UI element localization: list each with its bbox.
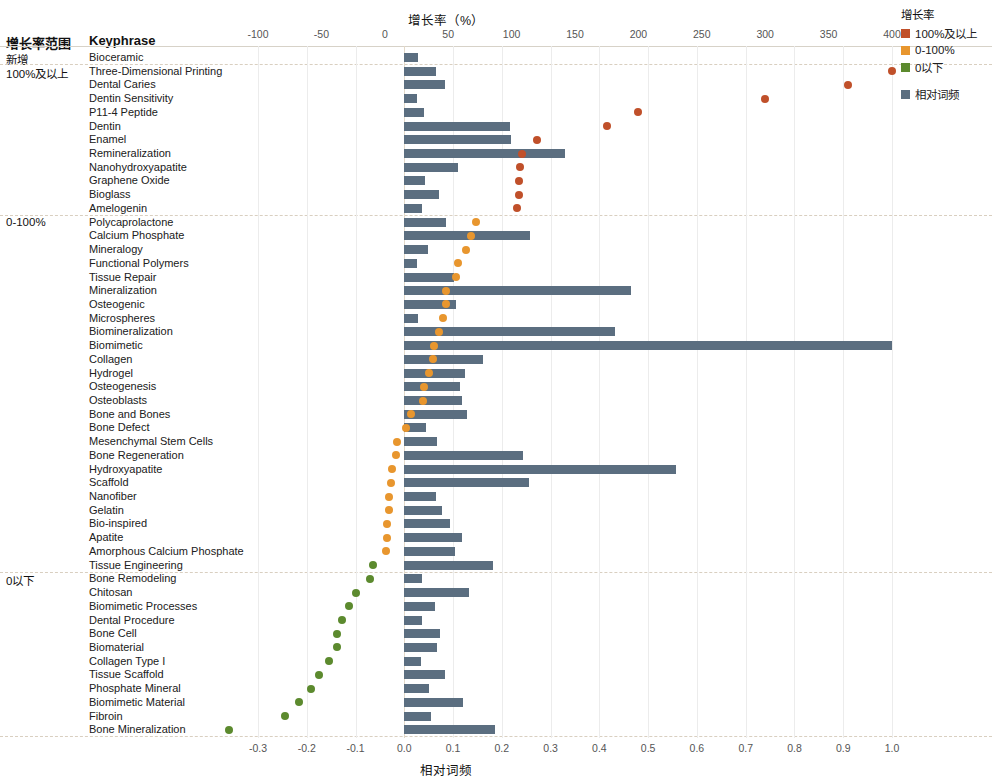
keyphrase-label: P11-4 Peptide <box>89 106 158 118</box>
gridline-9 <box>697 46 698 738</box>
bar <box>404 204 422 213</box>
legend: 增长率 100%及以上0-100%0以下 相对词频 <box>901 6 991 105</box>
bar <box>404 657 421 666</box>
gridline-0 <box>258 46 259 738</box>
bar <box>404 259 417 268</box>
bar <box>404 670 445 679</box>
legend-swatch <box>901 46 910 55</box>
bar <box>404 67 436 76</box>
legend-item-2[interactable]: 0以下 <box>901 59 991 75</box>
gridline-7 <box>599 46 600 738</box>
growth-dot <box>369 561 377 569</box>
group-column-header: 增长率范围 <box>6 33 71 52</box>
gridline-11 <box>794 46 795 738</box>
keyphrase-label: Collagen Type I <box>89 655 165 667</box>
bar <box>404 273 453 282</box>
bar <box>404 341 892 350</box>
keyphrase-label: Hydroxyapatite <box>89 463 162 475</box>
group-label: 0以下 <box>6 572 34 588</box>
growth-dot <box>515 191 523 199</box>
growth-dot <box>366 575 374 583</box>
bar <box>404 506 442 515</box>
bar <box>404 684 429 693</box>
keyphrase-label: Mesenchymal Stem Cells <box>89 435 213 447</box>
growth-dot <box>225 726 233 734</box>
bar <box>404 725 494 734</box>
keyphrase-label: Biomimetic <box>89 339 143 351</box>
keyphrase-label: Scaffold <box>89 476 129 488</box>
growth-dot <box>516 163 524 171</box>
bottom-axis-title: 相对词频 <box>0 760 892 779</box>
keyphrase-label: Fibroin <box>89 710 123 722</box>
gridline-2 <box>356 46 357 738</box>
top-tick-9: 350 <box>799 28 859 40</box>
growth-dot <box>761 95 769 103</box>
growth-dot <box>295 698 303 706</box>
plot-area <box>258 46 892 738</box>
keyphrase-label: Dentin Sensitivity <box>89 92 173 104</box>
keyphrase-label: Nanohydroxyapatite <box>89 161 187 173</box>
keyphrase-label: Phosphate Mineral <box>89 682 181 694</box>
bar <box>404 369 464 378</box>
bar <box>404 588 469 597</box>
keyphrase-label: Biomineralization <box>89 325 173 337</box>
growth-dot <box>439 314 447 322</box>
legend-swatch <box>901 29 910 38</box>
growth-dot <box>888 67 896 75</box>
keyphrase-label: Hydrogel <box>89 367 133 379</box>
growth-dot <box>307 685 315 693</box>
keyphrase-label: Mineralogy <box>89 243 143 255</box>
keyphrase-label: Biomaterial <box>89 641 144 653</box>
top-tick-0: -100 <box>228 28 288 40</box>
keyphrase-label: Microspheres <box>89 312 155 324</box>
bar <box>404 574 422 583</box>
keyphrase-label: Dental Caries <box>89 78 156 90</box>
bar <box>404 616 422 625</box>
top-tick-5: 150 <box>545 28 605 40</box>
growth-dot <box>472 218 480 226</box>
keyphrase-label: Apatite <box>89 531 123 543</box>
growth-dot <box>454 259 462 267</box>
top-axis-title: 增长率（%） <box>0 10 892 29</box>
bar <box>404 396 462 405</box>
keyphrase-label: Bio-inspired <box>89 517 147 529</box>
bar <box>404 478 528 487</box>
growth-dot <box>345 602 353 610</box>
growth-dot <box>385 493 393 501</box>
keyphrase-label: Calcium Phosphate <box>89 229 184 241</box>
keyphrase-label: Biomimetic Material <box>89 696 185 708</box>
growth-dot <box>533 136 541 144</box>
growth-dot <box>382 547 390 555</box>
legend-label: 100%及以上 <box>915 25 977 41</box>
keyphrase-label: Polycaprolactone <box>89 216 173 228</box>
keyphrase-label: Bioglass <box>89 188 131 200</box>
keyphrase-label: Dentin <box>89 120 121 132</box>
top-tick-4: 100 <box>482 28 542 40</box>
bar <box>404 602 434 611</box>
bar <box>404 80 444 89</box>
growth-dot <box>430 342 438 350</box>
legend-item-1[interactable]: 0-100% <box>901 44 991 56</box>
keyphrase-label: Bioceramic <box>89 51 143 63</box>
legend-item-0[interactable]: 100%及以上 <box>901 25 991 41</box>
keyphrase-label: Collagen <box>89 353 132 365</box>
bar <box>404 176 425 185</box>
bar <box>404 533 462 542</box>
keyphrase-label: Bone Defect <box>89 421 150 433</box>
growth-dot <box>387 479 395 487</box>
legend-label-relative-frequency: 相对词频 <box>915 86 959 102</box>
top-tick-6: 200 <box>608 28 668 40</box>
legend-item-relative-frequency[interactable]: 相对词频 <box>901 86 991 102</box>
bar <box>404 561 493 570</box>
keyphrase-label: Osteogenesis <box>89 380 156 392</box>
keyphrase-label: Biomimetic Processes <box>89 600 197 612</box>
bar <box>404 382 460 391</box>
legend-label: 0以下 <box>915 59 943 75</box>
keyphrase-label: Three-Dimensional Printing <box>89 65 222 77</box>
legend-items: 100%及以上0-100%0以下 <box>901 25 991 75</box>
growth-dot <box>388 465 396 473</box>
growth-dot <box>518 150 526 158</box>
keyphrase-label: Mineralization <box>89 284 157 296</box>
growth-dot <box>844 81 852 89</box>
growth-dot <box>420 383 428 391</box>
